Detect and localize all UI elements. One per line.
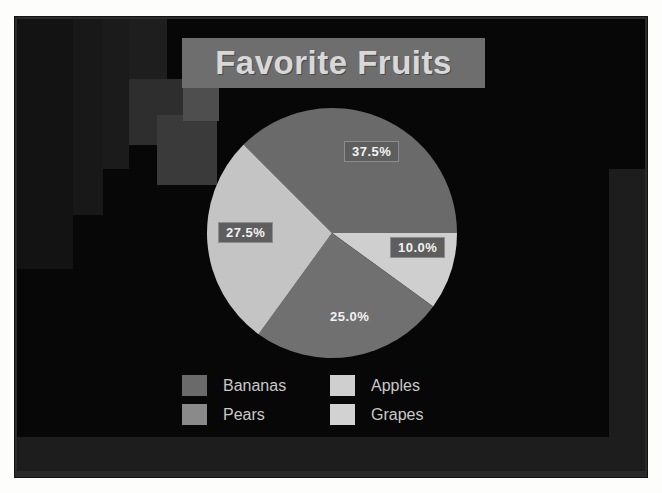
photo-frame: Favorite Fruits 37.5% 10.0% 25.0% 27.5% …: [0, 0, 662, 493]
chart-legend: Bananas Apples Pears Grapes: [182, 371, 492, 429]
chart-canvas: Favorite Fruits 37.5% 10.0% 25.0% 27.5% …: [17, 19, 645, 471]
legend-swatch-apples: [330, 375, 355, 396]
slice-label-pears: 27.5%: [218, 222, 273, 243]
slice-label-grapes: 25.0%: [323, 307, 376, 326]
legend-item-grapes: Grapes: [330, 404, 492, 425]
legend-swatch-grapes: [330, 404, 355, 425]
legend-label-bananas: Bananas: [223, 377, 286, 395]
legend-swatch-pears: [182, 404, 207, 425]
legend-label-grapes: Grapes: [371, 406, 423, 424]
legend-item-apples: Apples: [330, 375, 492, 396]
legend-item-bananas: Bananas: [182, 375, 330, 396]
legend-swatch-bananas: [182, 375, 207, 396]
slice-label-apples: 10.0%: [390, 237, 445, 258]
slice-label-bananas: 37.5%: [344, 141, 399, 162]
legend-label-pears: Pears: [223, 406, 265, 424]
legend-item-pears: Pears: [182, 404, 330, 425]
legend-label-apples: Apples: [371, 377, 420, 395]
